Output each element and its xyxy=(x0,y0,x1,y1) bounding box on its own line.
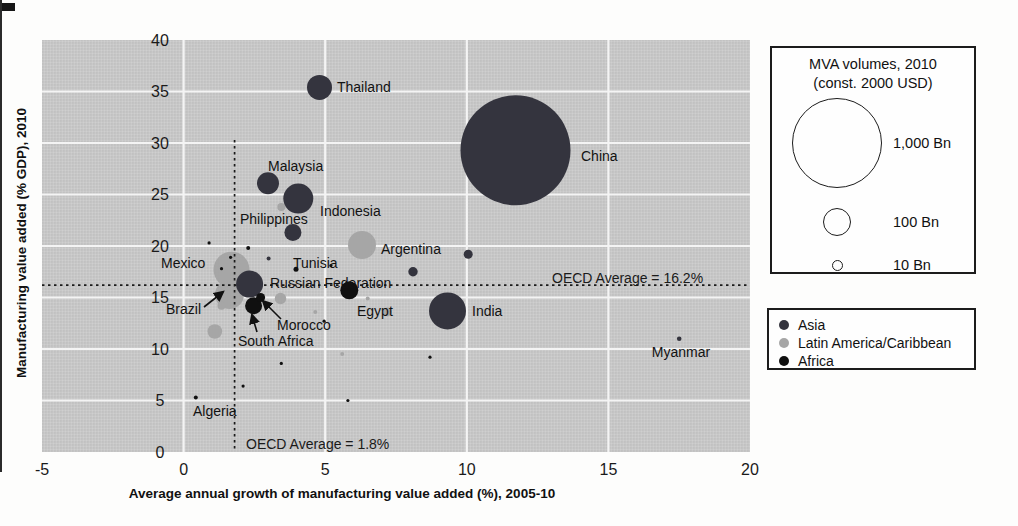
bubble-thailand xyxy=(307,75,332,100)
label-india: India xyxy=(472,303,503,319)
color-legend-label: Asia xyxy=(798,317,825,333)
legend-dot-icon xyxy=(779,338,789,348)
label-tunisia: Tunisia xyxy=(293,255,338,271)
y-tick-5: 5 xyxy=(156,392,165,409)
label-argentina: Argentina xyxy=(381,241,441,257)
bubble-dot xyxy=(366,297,370,301)
bubble-dot xyxy=(220,267,223,270)
bubble-dot xyxy=(280,362,283,365)
y-tick-10: 10 xyxy=(151,341,169,358)
size-legend-circle-1000bn xyxy=(792,98,882,188)
bubble-myanmar xyxy=(677,336,682,341)
y-tick-30: 30 xyxy=(151,135,169,152)
bubble-dot xyxy=(208,241,211,244)
bubble-dot xyxy=(267,256,271,260)
color-legend: AsiaLatin America/CaribbeanAfrica xyxy=(767,308,976,370)
bubble-dot xyxy=(246,246,250,250)
size-legend-circle-100bn xyxy=(823,208,851,236)
bubble-china xyxy=(461,95,571,205)
scan-corner-artifact xyxy=(2,3,15,11)
bubble-indonesia xyxy=(283,184,313,214)
bubble-dot xyxy=(340,352,344,356)
size-legend-label: 1,000 Bn xyxy=(893,135,951,151)
size-legend: MVA volumes, 2010 (const. 2000 USD) 1,00… xyxy=(770,46,976,274)
label-china: China xyxy=(581,148,618,164)
bubble-algeria xyxy=(194,395,198,399)
legend-dot-icon xyxy=(779,320,789,330)
size-legend-title-line2: (const. 2000 USD) xyxy=(772,74,974,93)
bubble-dot xyxy=(218,302,226,310)
x-tick-15: 15 xyxy=(600,461,618,478)
color-legend-label: Latin America/Caribbean xyxy=(798,335,951,351)
color-legend-row-africa: Africa xyxy=(779,355,834,367)
label-algeria: Algeria xyxy=(193,403,237,419)
bubble-dot xyxy=(242,385,245,388)
label-malaysia: Malaysia xyxy=(268,158,323,174)
y-tick-40: 40 xyxy=(151,32,169,49)
y-axis-title: Manufacturing value added (% GDP), 2010 xyxy=(14,108,29,378)
size-legend-label: 100 Bn xyxy=(893,214,939,230)
label-mexico: Mexico xyxy=(161,255,206,271)
bubble-chart-figure: -5051015200510152025303540 ChinaIndiaTha… xyxy=(0,0,1018,526)
label-russian-federation: Russian Federation xyxy=(270,275,391,291)
bubble-malaysia xyxy=(257,172,279,194)
legend-dot-icon xyxy=(779,356,789,366)
label-morocco: Morocco xyxy=(277,317,331,333)
oecd-horizontal-label: OECD Average = 16.2% xyxy=(552,270,703,286)
label-thailand: Thailand xyxy=(337,79,391,95)
y-tick-0: 0 xyxy=(156,444,165,461)
bubble-dot xyxy=(313,310,317,314)
x-tick-20: 20 xyxy=(741,461,759,478)
y-tick-25: 25 xyxy=(151,186,169,203)
label-south-africa: South Africa xyxy=(238,333,314,349)
bubble-dot xyxy=(208,324,223,339)
bubble-dot xyxy=(277,203,285,211)
label-egypt: Egypt xyxy=(357,303,393,319)
x-axis-title: Average annual growth of manufacturing v… xyxy=(129,486,555,501)
y-tick-20: 20 xyxy=(151,238,169,255)
bubble-dot xyxy=(428,356,431,359)
y-tick-35: 35 xyxy=(151,83,169,100)
color-legend-row-asia: Asia xyxy=(779,319,825,331)
label-indonesia: Indonesia xyxy=(320,203,381,219)
x-tick-5: 5 xyxy=(321,461,330,478)
size-legend-circle-10bn xyxy=(832,260,843,271)
bubble-dot xyxy=(275,293,286,304)
bubble-dot xyxy=(408,267,417,276)
x-tick--5: -5 xyxy=(35,461,49,478)
size-legend-label: 10 Bn xyxy=(893,257,931,273)
color-legend-label: Africa xyxy=(798,353,834,369)
size-legend-title-line1: MVA volumes, 2010 xyxy=(772,55,974,74)
x-tick-10: 10 xyxy=(458,461,476,478)
bubble-argentina xyxy=(348,231,376,259)
bubble-dot xyxy=(346,399,349,402)
label-philippines: Philippines xyxy=(240,211,308,227)
x-tick-0: 0 xyxy=(179,461,188,478)
bubble-dot xyxy=(229,256,232,259)
label-brazil: Brazil xyxy=(166,301,201,317)
bubble-india xyxy=(429,292,466,329)
color-legend-row-latin-america-caribbean: Latin America/Caribbean xyxy=(779,337,951,349)
bubble-dot xyxy=(464,250,473,259)
size-legend-title: MVA volumes, 2010 (const. 2000 USD) xyxy=(772,55,974,93)
oecd-vertical-label: OECD Average = 1.8% xyxy=(246,436,389,452)
label-myanmar: Myanmar xyxy=(652,344,711,360)
scan-edge-artifact xyxy=(0,0,2,472)
